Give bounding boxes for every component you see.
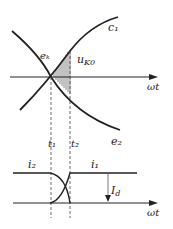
upper-x-axis-label: ωt	[147, 81, 160, 92]
current-i1	[50, 173, 137, 203]
t1-label: t₁	[48, 138, 56, 149]
i1-label: i₁	[91, 158, 99, 171]
current-i2	[13, 173, 70, 203]
hatched-area	[54, 51, 70, 94]
hatched-area-label: uK0	[77, 53, 95, 67]
rising-curve	[20, 17, 118, 110]
intersection-label: eₖ	[40, 50, 50, 61]
commutation-diagram: c₁ e₂ eₖ uK0 ωt t₁ t₂ i₂ i₁ Id ωt	[0, 0, 173, 229]
t2-label: t₂	[71, 138, 79, 149]
upper-x-axis-arrow-icon	[149, 74, 158, 80]
upper-graph: c₁ e₂ eₖ uK0 ωt	[10, 17, 160, 148]
rising-curve-label: c₁	[108, 21, 119, 34]
lower-graph: i₂ i₁ Id ωt	[13, 158, 160, 218]
id-label: Id	[110, 184, 120, 198]
lower-x-axis-label: ωt	[147, 207, 160, 218]
falling-curve-label: e₂	[111, 135, 122, 148]
i2-label: i₂	[28, 158, 36, 171]
lower-x-axis-arrow-icon	[149, 200, 158, 206]
